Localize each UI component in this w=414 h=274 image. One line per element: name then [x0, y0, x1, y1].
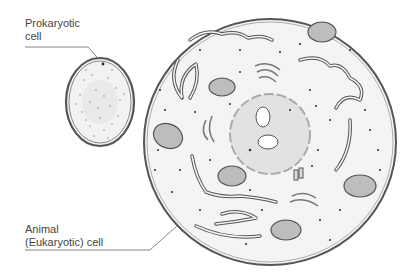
animal-cell — [144, 19, 396, 265]
prokaryotic-cell — [66, 58, 134, 146]
prokaryotic-label: Prokaryotic cell — [25, 17, 80, 43]
animal-label-line2: (Eukaryotic) cell — [25, 236, 103, 249]
nucleus — [230, 94, 310, 174]
animal-label: Animal (Eukaryotic) cell — [25, 223, 103, 249]
prokaryotic-label-line1: Prokaryotic — [25, 17, 80, 30]
centriole — [294, 168, 303, 180]
prokaryotic-label-line2: cell — [25, 30, 80, 43]
animal-label-line1: Animal — [25, 223, 103, 236]
